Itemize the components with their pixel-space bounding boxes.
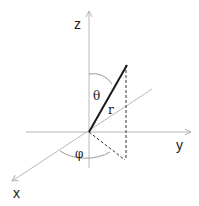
phi-label: φ: [75, 147, 83, 161]
theta-arc: [89, 74, 112, 84]
x-axis: [12, 89, 152, 181]
x-axis-label: x: [13, 185, 20, 201]
diagram-svg: z y x θ r φ: [0, 0, 199, 206]
y-axis-label: y: [176, 137, 183, 153]
phi-arc: [60, 151, 110, 158]
r-label: r: [108, 103, 114, 117]
dashed-plane-projection: [89, 132, 125, 160]
spherical-coordinates-diagram: z y x θ r φ: [0, 0, 199, 206]
theta-label: θ: [93, 89, 100, 103]
z-axis-label: z: [74, 16, 81, 32]
